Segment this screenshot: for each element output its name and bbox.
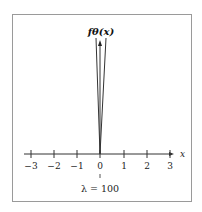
x-axis-label: x	[180, 149, 185, 159]
tick-label-3: 3	[167, 161, 173, 171]
tick-label-0: 0	[97, 161, 103, 171]
y-axis-arrow-icon	[98, 40, 102, 46]
spike-curve	[96, 38, 106, 154]
lambda-caption: λ = 100	[81, 183, 119, 194]
plot: x −3 −2 −1 0 1 2 3 fθ(x) λ = 100	[0, 0, 202, 212]
tick-label-1: 1	[121, 161, 127, 171]
tick-label-neg2: −2	[47, 161, 60, 171]
tick-label-neg3: −3	[24, 161, 38, 171]
tick-label-neg1: −1	[70, 161, 83, 171]
function-label: fθ(x)	[87, 26, 115, 37]
tick-label-2: 2	[144, 161, 150, 171]
